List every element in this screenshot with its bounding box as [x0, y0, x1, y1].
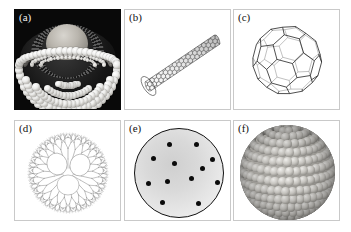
quantum-dot: [215, 180, 220, 185]
nanotube-svg: [125, 10, 231, 110]
nanotube-illustration: [125, 10, 230, 109]
quantum-dot: [167, 142, 172, 147]
quantum-dot: [165, 179, 170, 184]
quantum-dot: [210, 157, 215, 162]
nanoparticle-subunit: [285, 167, 294, 176]
panel-f-nanoparticle: (f): [233, 120, 340, 221]
panel-d-dendrimer: (d): [14, 120, 121, 221]
dendrimer-core-lobes: [44, 150, 93, 195]
liposome-illustration: [15, 10, 120, 109]
nanoparticle-subunit: [280, 203, 288, 211]
quantum-dot: [172, 161, 177, 166]
nanoparticle-subunit: [285, 177, 294, 186]
nanoparticle-sphere: [240, 125, 335, 220]
dendrimer-core-lobe: [67, 151, 93, 179]
fullerene-wireframe: [253, 27, 322, 94]
panel-e-label: (e): [129, 122, 141, 134]
panel-e-quantum-dots: (e): [124, 120, 231, 221]
panel-a-liposome: (a): [14, 9, 121, 110]
lipid-head-bead-inner: [68, 56, 71, 59]
lipid-head-bead: [55, 109, 63, 110]
panel-d-label: (d): [19, 122, 32, 134]
panel-a-label: (a): [19, 11, 31, 23]
lipid-head-bead-inner: [60, 56, 63, 59]
dendrimer-core-lobe: [44, 150, 70, 178]
quantum-dot: [189, 176, 194, 181]
lipid-head-bead-inner: [93, 63, 96, 66]
quantum-dot: [146, 181, 151, 186]
nanoparticle-subunit: [283, 157, 292, 166]
nanoparticle-subunit: [283, 140, 292, 149]
nanoparticle-subunit: [281, 187, 290, 196]
liposome-head-groups: [15, 10, 120, 109]
lipid-head-bead: [32, 83, 40, 91]
lipid-head-bead-inner: [64, 56, 67, 59]
lipid-head-bead-inner: [102, 63, 106, 67]
figure-container: (a): [0, 0, 351, 232]
panel-c-label: (c): [238, 11, 250, 23]
panel-b-label: (b): [129, 11, 142, 23]
dendrimer-branches: [28, 133, 108, 213]
quantum-dot: [151, 156, 156, 161]
fullerene-svg: [234, 10, 340, 110]
lipid-head-bead: [22, 76, 30, 84]
quantum-dot: [200, 166, 205, 171]
panel-b-nanotube: (b): [124, 9, 231, 110]
nanoparticle-subunit: [285, 148, 294, 157]
quantum-dot: [196, 201, 201, 206]
lipid-head-bead: [73, 109, 81, 110]
quantum-dot: [160, 200, 165, 205]
quantum-dot: [194, 142, 199, 147]
lipid-head-bead: [113, 61, 120, 68]
panel-f-label: (f): [238, 122, 249, 134]
dendrimer-svg: [15, 121, 121, 221]
disc-shape: [134, 128, 224, 218]
dendrimer-core-lobe: [57, 175, 79, 195]
panel-c-fullerene: (c): [233, 9, 340, 110]
nanoparticle-subunit: [287, 203, 295, 211]
